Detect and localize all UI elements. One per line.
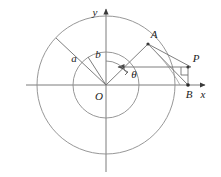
dot-point-p (186, 65, 189, 68)
x-axis-label: x (200, 88, 206, 100)
y-axis-label: y (92, 6, 98, 18)
dot-point-b (186, 83, 190, 87)
segment-a-p (148, 44, 191, 67)
angle-theta-label: θ (131, 68, 137, 80)
point-b-label: B (186, 88, 193, 100)
segment-o-a (106, 44, 148, 85)
radius-a-label: a (71, 52, 77, 64)
radius-a-line (56, 38, 106, 85)
geometry-figure: y x O A P B a b θ (0, 0, 221, 177)
point-p-label: P (192, 52, 200, 64)
radius-b-label: b (95, 48, 101, 60)
point-a-label: A (150, 28, 158, 40)
origin-label: O (95, 90, 103, 102)
arc-a-to-b (148, 44, 180, 85)
dot-point-a (146, 42, 149, 45)
geometry-canvas: y x O A P B a b θ (0, 0, 221, 177)
angle-arc-tick (124, 70, 128, 75)
